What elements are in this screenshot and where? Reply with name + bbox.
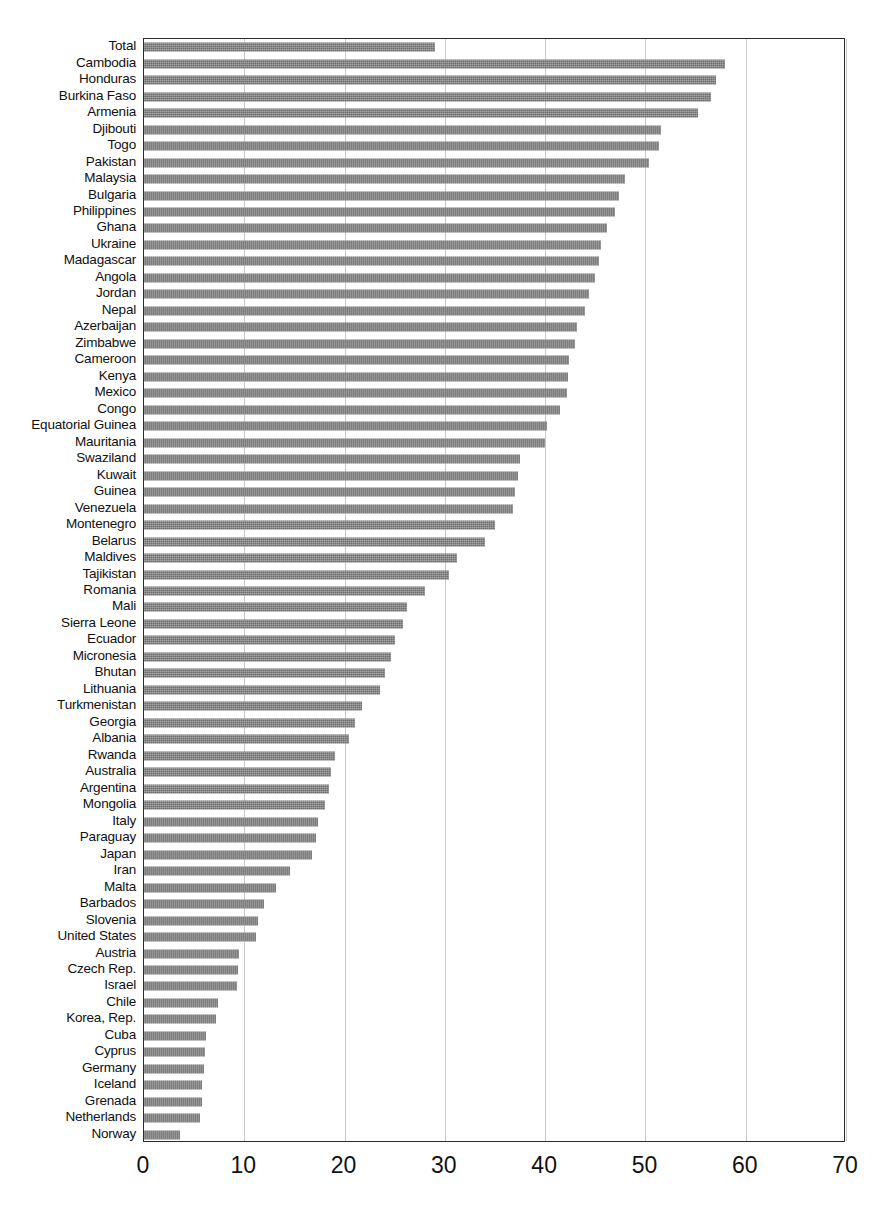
bar-row	[144, 369, 844, 385]
category-label: Georgia	[89, 715, 136, 729]
category-label: Iran	[114, 863, 136, 877]
bar-row	[144, 533, 844, 549]
category-label: Philippines	[73, 204, 136, 218]
bar-row	[144, 204, 844, 220]
bar-row	[144, 1044, 844, 1060]
category-label: Rwanda	[88, 748, 136, 762]
bar	[144, 685, 380, 694]
bar-row	[144, 286, 844, 302]
bar	[144, 323, 577, 332]
bar-row	[144, 385, 844, 401]
bar-row	[144, 434, 844, 450]
bar-row	[144, 220, 844, 236]
bar	[144, 735, 349, 744]
bar	[144, 883, 276, 892]
bar	[144, 158, 649, 167]
bar-row	[144, 764, 844, 780]
bar-row	[144, 715, 844, 731]
bar	[144, 339, 575, 348]
bar-row	[144, 121, 844, 137]
category-label: Cyprus	[94, 1044, 136, 1058]
x-tick-label: 20	[331, 1152, 357, 1178]
category-label: Australia	[85, 764, 136, 778]
category-label: Israel	[104, 978, 136, 992]
bar-row	[144, 187, 844, 203]
category-label: Cambodia	[76, 56, 136, 70]
bar-row	[144, 105, 844, 121]
bar-row	[144, 237, 844, 253]
bar	[144, 702, 362, 711]
bar	[144, 1081, 202, 1090]
bar	[144, 1097, 202, 1106]
bar-row	[144, 830, 844, 846]
category-label: Mauritania	[75, 435, 136, 449]
category-label: Austria	[95, 946, 136, 960]
bar	[144, 142, 659, 151]
bar	[144, 850, 312, 859]
bar	[144, 1015, 216, 1024]
x-tick-label: 0	[137, 1152, 150, 1178]
bar-chart: TotalCambodiaHondurasBurkina FasoArmenia…	[0, 0, 872, 1213]
category-label: Djibouti	[93, 122, 136, 136]
x-tick-label: 40	[531, 1152, 557, 1178]
category-label: Lithuania	[83, 682, 136, 696]
bar	[144, 1048, 205, 1057]
category-label: Netherlands	[65, 1110, 136, 1124]
bar-row	[144, 39, 844, 55]
bar-row	[144, 55, 844, 71]
bar-row	[144, 484, 844, 500]
category-label: Montenegro	[66, 517, 136, 531]
x-tick-label: 30	[431, 1152, 457, 1178]
bar-row	[144, 1011, 844, 1027]
bar	[144, 389, 567, 398]
bar	[144, 240, 601, 249]
category-label: Malaysia	[84, 171, 136, 185]
bar-row	[144, 88, 844, 104]
bar	[144, 175, 625, 184]
category-label: Cuba	[105, 1028, 136, 1042]
bar	[144, 718, 355, 727]
category-label: Mexico	[94, 385, 136, 399]
category-label: Ghana	[96, 220, 136, 234]
bar-row	[144, 336, 844, 352]
category-label: Argentina	[80, 781, 136, 795]
bar	[144, 784, 329, 793]
bar-row	[144, 467, 844, 483]
bar	[144, 965, 238, 974]
bar-row	[144, 632, 844, 648]
bar-row	[144, 171, 844, 187]
bar	[144, 998, 218, 1007]
category-label: Czech Rep.	[67, 962, 136, 976]
bar	[144, 652, 391, 661]
bar-row	[144, 962, 844, 978]
category-label: Honduras	[79, 72, 136, 86]
category-label: Azerbaijan	[74, 319, 136, 333]
category-label: United States	[58, 929, 136, 943]
category-label: Chile	[106, 995, 136, 1009]
x-tick-label: 60	[732, 1152, 758, 1178]
category-label: Malta	[104, 880, 136, 894]
category-label: Equatorial Guinea	[31, 418, 136, 432]
bar	[144, 1031, 206, 1040]
bar	[144, 801, 325, 810]
bar-row	[144, 813, 844, 829]
category-label: Romania	[83, 583, 136, 597]
bar-row	[144, 1061, 844, 1077]
category-label: Norway	[91, 1127, 136, 1141]
bar	[144, 125, 661, 134]
category-label: Turkmenistan	[57, 698, 136, 712]
bar	[144, 504, 513, 513]
bar	[144, 471, 518, 480]
category-label: Maldives	[84, 550, 136, 564]
bar	[144, 43, 435, 52]
category-label: Zimbabwe	[75, 336, 136, 350]
bar	[144, 636, 395, 645]
bar-row	[144, 253, 844, 269]
bar-row	[144, 1077, 844, 1093]
category-label: Armenia	[87, 105, 136, 119]
bar	[144, 751, 335, 760]
category-label: Togo	[108, 138, 136, 152]
category-label: Ukraine	[91, 237, 136, 251]
bar-row	[144, 649, 844, 665]
category-label: Jordan	[96, 286, 136, 300]
